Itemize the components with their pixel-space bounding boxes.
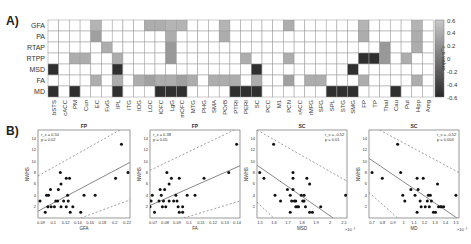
heatmap-cell	[262, 64, 273, 75]
y-tick: 10	[251, 159, 256, 164]
heatmap-cell	[326, 42, 337, 53]
data-point	[114, 177, 117, 180]
column-label: Put	[404, 100, 410, 109]
data-point	[161, 205, 164, 208]
heatmap-cell	[251, 31, 262, 42]
heatmap-cell	[134, 86, 145, 97]
data-point	[258, 171, 261, 174]
heatmap-cell	[337, 75, 348, 86]
heatmap-cell	[251, 75, 262, 86]
heatmap-cell	[59, 64, 70, 75]
y-tick: 4	[34, 193, 37, 198]
heatmap-cell	[134, 53, 145, 64]
heatmap-cell	[412, 53, 423, 64]
heatmap-cell	[348, 75, 359, 86]
heatmap-cell	[134, 75, 145, 86]
heatmap-cell	[187, 86, 198, 97]
column-label: MTG	[190, 100, 196, 114]
data-point	[414, 194, 417, 197]
heatmap-cell	[48, 64, 59, 75]
heatmap-cell	[348, 64, 359, 75]
heatmap-cell	[390, 75, 401, 86]
heatmap-cell	[176, 53, 187, 64]
heatmap-cell	[176, 75, 187, 86]
heatmap-cell	[102, 31, 113, 42]
x-tick: 0.9	[390, 220, 396, 225]
heatmap-cell	[348, 53, 359, 64]
scatter-charts: FPr_s = 0.50p = 0.0224681012140.090.10.1…	[0, 120, 471, 244]
heatmap-cell	[102, 53, 113, 64]
data-point	[178, 177, 181, 180]
heatmap-cell	[209, 86, 220, 97]
plot-title: FP	[81, 123, 88, 129]
heatmap-cell	[166, 31, 177, 42]
data-point	[442, 205, 445, 208]
y-tick: 14	[363, 136, 368, 141]
stat-annotation: p = 0.004	[437, 137, 455, 142]
heatmap-cell	[241, 64, 252, 75]
heatmap-cell	[144, 86, 155, 97]
heatmap-cell	[337, 64, 348, 75]
heatmap-cell	[112, 31, 123, 42]
y-tick: 4	[146, 193, 149, 198]
heatmap-cell	[155, 42, 166, 53]
x-multiplier: ×10⁻³	[345, 227, 356, 232]
x-tick: 1.3	[432, 220, 438, 225]
heatmap-cell	[112, 53, 123, 64]
column-label: rMFG	[308, 100, 314, 116]
heatmap-cell	[241, 75, 252, 86]
heatmap-cell	[187, 42, 198, 53]
y-tick: 10	[144, 159, 149, 164]
data-point	[164, 205, 167, 208]
data-point	[178, 211, 181, 214]
colorbar-tick: 0.2	[447, 43, 456, 49]
column-label: LOC	[147, 99, 153, 112]
data-point	[409, 188, 412, 191]
data-point	[203, 177, 206, 180]
heatmap-cell	[283, 75, 294, 86]
heatmap-cell	[69, 53, 80, 64]
heatmap-cell	[112, 64, 123, 75]
heatmap-cell	[102, 64, 113, 75]
data-point	[69, 211, 72, 214]
colorbar-tick: 0	[447, 56, 451, 62]
heatmap-cell	[91, 20, 102, 31]
column-label: STG	[340, 100, 346, 113]
heatmap-cell	[69, 64, 80, 75]
data-point	[150, 199, 153, 202]
heatmap-cell	[69, 31, 80, 42]
x-tick: 0.22	[123, 220, 132, 225]
y-tick: 8	[34, 170, 37, 175]
x-tick: 0.12	[209, 220, 218, 225]
y-tick: 8	[146, 170, 149, 175]
heatmap-cell	[326, 64, 337, 75]
heatmap-cell	[326, 31, 337, 42]
data-point	[162, 199, 165, 202]
y-tick: 2	[253, 204, 256, 209]
x-tick: 0.18	[99, 220, 108, 225]
row-label: RTPP	[26, 55, 45, 62]
heatmap-cell	[80, 86, 91, 97]
data-point	[292, 171, 295, 174]
row-label: MSD	[29, 66, 45, 73]
heatmap-cell	[123, 53, 134, 64]
heatmap-cell	[209, 42, 220, 53]
heatmap-cell	[326, 75, 337, 86]
heatmap-cell	[401, 31, 412, 42]
heatmap-cell	[283, 64, 294, 75]
x-tick: 1.5	[257, 220, 263, 225]
column-label: Cau	[393, 100, 399, 111]
data-point	[181, 205, 184, 208]
heatmap-cell	[80, 31, 91, 42]
heatmap-cell	[166, 75, 177, 86]
heatmap-cell	[316, 86, 327, 97]
x-axis-label: MD	[411, 226, 419, 231]
heatmap-cell	[337, 53, 348, 64]
heatmap-cell	[262, 86, 273, 97]
y-tick: 6	[365, 181, 368, 186]
column-label: EC	[94, 99, 100, 108]
data-point	[67, 199, 70, 202]
heatmap-cell	[326, 20, 337, 31]
plot-frame	[369, 130, 459, 218]
heatmap-cell	[176, 20, 187, 31]
